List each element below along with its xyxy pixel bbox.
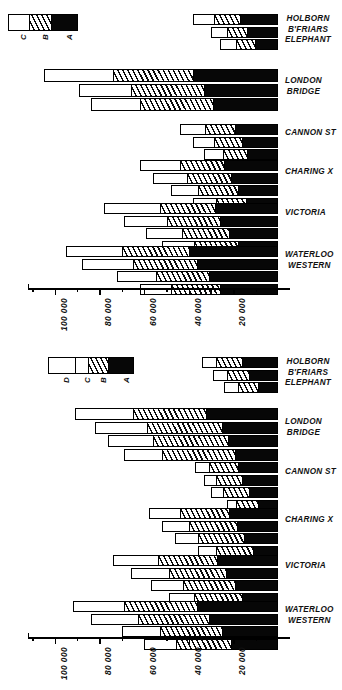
legend-label-a: A (122, 377, 131, 383)
stacked-bar (180, 124, 278, 135)
bar-segment-b (180, 161, 224, 170)
bar-segment-a (244, 534, 277, 543)
bar-segment-b (216, 476, 242, 485)
axis-tick-label: 100 000 (59, 298, 69, 331)
bar-segment-c (163, 522, 189, 531)
station-label-victoria: VICTORIA (285, 561, 326, 572)
stacked-bar (44, 69, 278, 82)
station-label-charing: CHARING X (285, 515, 333, 526)
bar-segment-a (197, 602, 277, 611)
bar-segment-b (158, 556, 218, 565)
bar-segment-a (228, 436, 277, 446)
legend-swatch-d: D (49, 358, 75, 373)
axis-tick-minor (256, 288, 257, 292)
bar-segment-b (198, 186, 237, 195)
stacked-bar (82, 259, 278, 270)
bar-segment-c (205, 476, 216, 485)
bar-segment-b (205, 125, 236, 134)
bar-segment-c (92, 615, 138, 624)
station-label-charing: CHARING X (285, 167, 333, 178)
bar-segment-c (92, 99, 141, 110)
axis-tick-minor (256, 637, 257, 641)
bar-segment-c (176, 534, 198, 543)
stacked-bar (140, 160, 278, 171)
axis-tick-minor (211, 288, 212, 292)
stacked-bar (91, 614, 279, 625)
bar-segment-b (169, 569, 226, 578)
bar-segment-b (133, 260, 197, 269)
axis-end-cap (28, 633, 29, 638)
axis-tick-major (233, 288, 234, 295)
bar-segment-a (224, 161, 277, 170)
bar-segment-a (197, 260, 277, 269)
bar-segment-b (214, 138, 242, 147)
bar-segment-b (140, 99, 213, 110)
axis-tick-minor (122, 637, 123, 641)
legend: CBA (8, 14, 78, 31)
legend: DCBA (48, 357, 134, 374)
bar-segment-c (105, 204, 160, 213)
bar-segment-a (217, 556, 277, 565)
bar-segment-b (124, 602, 197, 611)
bar-segment-c (80, 85, 131, 96)
bar-segment-a (237, 522, 276, 531)
lower-chart-panel: DCBA HOLBORNB'FRIARSELEPHANTLONDONBRIDGE… (0, 345, 342, 690)
axis-tick-label: 100 000 (59, 647, 69, 680)
legend-label-a: A (65, 34, 74, 40)
axis-tick-label: 80 000 (103, 298, 113, 326)
bar-segment-a (240, 15, 277, 24)
station-label-line: B'FRIARS (285, 368, 331, 379)
bar-segment-a (242, 138, 277, 147)
axis-tick-label: 20 000 (237, 298, 247, 326)
bar-segment-a (242, 358, 277, 367)
bar-segment-c (154, 174, 187, 183)
bar-segment-a (220, 217, 277, 226)
bar-segment-b (153, 436, 228, 446)
bar-segment-a (238, 463, 277, 472)
bar-segment-a (255, 40, 277, 49)
bar-segment-c (45, 70, 114, 81)
station-label-line: CHARING X (285, 515, 333, 526)
axis-tick-label: 60 000 (148, 647, 158, 675)
station-label-line: B'FRIARS (285, 25, 331, 36)
bar-segment-b (187, 174, 231, 183)
bar-segment-c (109, 436, 153, 446)
bar-segment-c (205, 150, 222, 159)
bar-segment-c (212, 28, 227, 37)
bar-segment-c (221, 40, 236, 49)
bar-segment-b (227, 371, 249, 380)
bar-segment-a (249, 488, 277, 497)
bar-segment-c (196, 463, 209, 472)
station-label-line: ELEPHANT (285, 35, 331, 46)
axis-tick-major (55, 288, 56, 295)
bar-segment-b (113, 70, 193, 81)
axis-line (28, 288, 290, 290)
bar-segment-a (222, 423, 277, 433)
bar-segment-c (212, 488, 223, 497)
bar-segment-c (194, 138, 214, 147)
bar-segment-b (189, 522, 237, 531)
bar-segment-b (133, 409, 206, 419)
bar-segment-b (162, 450, 235, 460)
bar-segment-c (214, 371, 227, 380)
station-label-line: LONDON (285, 76, 322, 87)
axis-end-cap (28, 284, 29, 289)
station-label-line: VICTORIA (285, 208, 326, 219)
legend-label-d: D (62, 377, 71, 383)
stacked-bar (153, 173, 278, 184)
stacked-bar (195, 462, 278, 473)
stacked-bar (204, 475, 278, 486)
stacked-bar (91, 98, 279, 111)
bar-segment-c (123, 627, 160, 636)
bar-segment-c (152, 581, 183, 590)
stacked-bar (171, 185, 278, 196)
bar-segment-a (229, 229, 277, 238)
stacked-bar (66, 246, 278, 257)
axis-tick-minor (32, 637, 33, 641)
stacked-bar (75, 408, 278, 420)
bar-segment-a (229, 509, 277, 518)
stacked-bar (202, 357, 278, 368)
station-label-line: HOLBORN (285, 357, 331, 368)
axis-tick-label: 80 000 (103, 647, 113, 675)
station-label-cannon: CANNON ST (285, 467, 336, 478)
